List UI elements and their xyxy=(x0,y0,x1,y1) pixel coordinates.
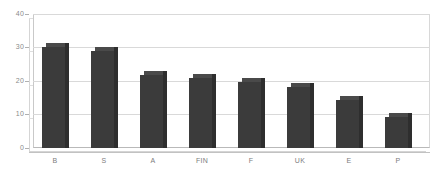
bar-F xyxy=(238,82,261,148)
bar-S xyxy=(91,51,114,148)
bar-chart: 40 30 20 10 0 xyxy=(0,0,442,175)
x-tick-label-P: P xyxy=(383,156,413,165)
x-tick-label-A: A xyxy=(138,156,168,165)
bar-side-face-A xyxy=(163,71,167,148)
bar-side-face-E xyxy=(359,96,363,148)
bar-A xyxy=(140,75,163,148)
bars-group xyxy=(0,0,442,175)
bar-B xyxy=(42,47,65,148)
x-tick-label-UK: UK xyxy=(285,156,315,165)
bar-FIN xyxy=(189,78,212,148)
x-tick-label-S: S xyxy=(89,156,119,165)
bar-side-face-FIN xyxy=(212,74,216,148)
x-tick-label-E: E xyxy=(334,156,364,165)
bar-side-face-P xyxy=(408,113,412,148)
bar-P xyxy=(385,117,408,148)
x-tick-label-F: F xyxy=(236,156,266,165)
x-tick-label-B: B xyxy=(40,156,70,165)
bar-UK xyxy=(287,87,310,148)
bar-side-face-S xyxy=(114,47,118,148)
bar-side-face-UK xyxy=(310,83,314,148)
bar-E xyxy=(336,100,359,148)
bar-side-face-F xyxy=(261,78,265,148)
bar-side-face-B xyxy=(65,43,69,148)
x-tick-label-FIN: FIN xyxy=(187,156,217,165)
